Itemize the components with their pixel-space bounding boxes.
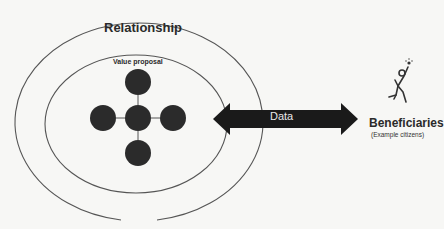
relationship-title: Relationship [104,20,182,35]
sparkle-icon [405,58,412,64]
person-cheering-icon [389,67,408,102]
node-left [90,105,116,131]
value-proposal-title: Value proposal [113,58,163,65]
beneficiaries-subtitle: (Example citizens) [371,131,424,138]
node-bottom [125,140,151,166]
node-top [125,69,151,95]
node-center [125,105,151,131]
node-right [160,105,186,131]
beneficiaries-title: Beneficiaries [369,116,444,130]
data-arrow-label: Data [270,110,293,122]
